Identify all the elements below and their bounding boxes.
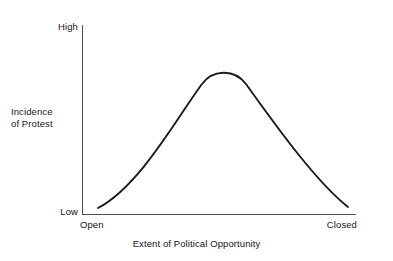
x-axis-title: Extent of Political Opportunity (0, 238, 393, 250)
protest-curve (98, 73, 348, 208)
x-axis-tick-closed: Closed (281, 219, 357, 231)
chart-figure: High Low Incidence of Protest Open Close… (0, 0, 393, 261)
y-axis-title-line-2: of Protest (11, 118, 74, 130)
y-axis-title: Incidence of Protest (0, 106, 74, 130)
y-axis-tick-low: Low (0, 206, 78, 218)
y-axis-title-line-1: Incidence (11, 106, 74, 118)
y-axis-tick-high: High (0, 21, 78, 33)
x-axis-tick-open: Open (80, 219, 104, 231)
